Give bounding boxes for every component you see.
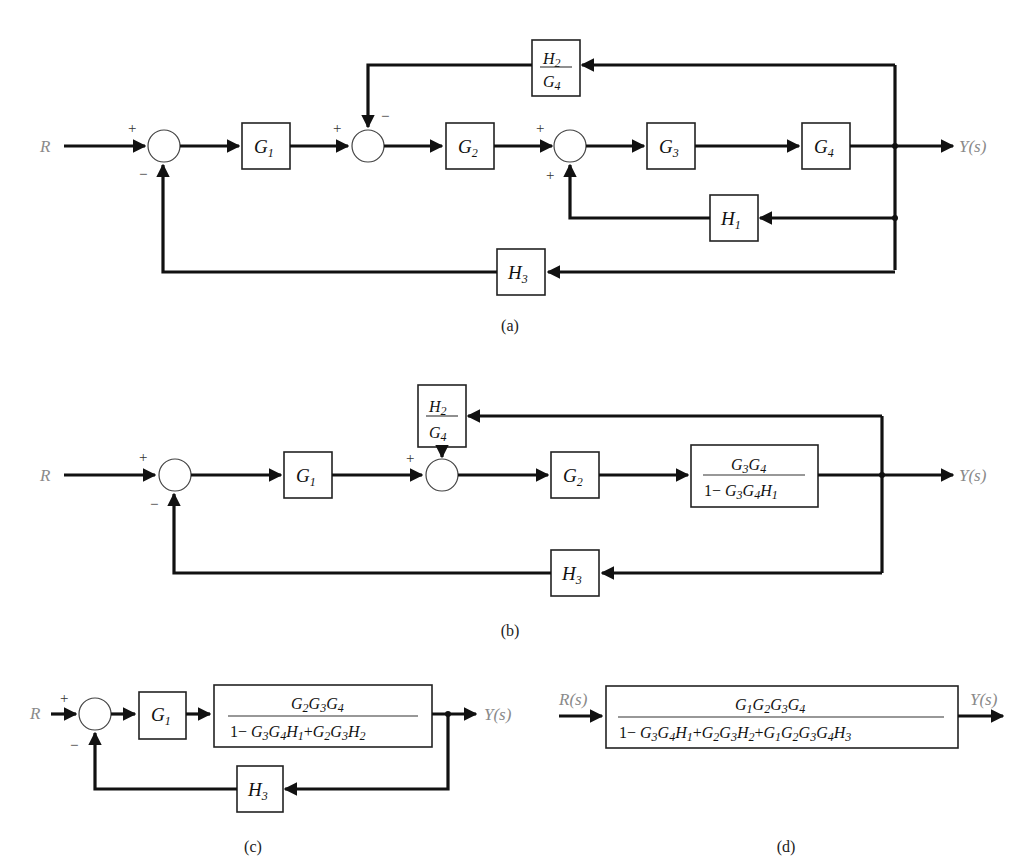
sign-plus: + [139, 449, 147, 465]
sign-minus: − [139, 166, 147, 182]
sign-minus: − [70, 737, 78, 753]
summing-junction-1 [159, 459, 191, 491]
caption-c: (c) [244, 838, 262, 856]
input-label-r: R [39, 137, 51, 156]
output-label-y: Y(s) [970, 690, 998, 709]
input-label-rs: R(s) [558, 690, 588, 709]
caption-a: (a) [501, 317, 519, 335]
input-label-r: R [39, 466, 51, 485]
sign-plus: + [546, 167, 554, 183]
summing-junction-3 [554, 130, 586, 162]
caption-d: (d) [777, 838, 796, 856]
sign-plus: + [128, 120, 136, 136]
summing-junction [79, 698, 111, 730]
wire-h3-feedback [174, 494, 551, 573]
caption-b: (b) [501, 622, 520, 640]
sign-plus: + [536, 120, 544, 136]
block-diagram-figure: R + − G1 + − G2 + + G3 G4 Y(s) H2 [0, 0, 1028, 866]
summing-junction-2 [426, 459, 458, 491]
summing-junction-1 [148, 130, 180, 162]
wire-h2-feedback [368, 65, 532, 127]
summing-junction-2 [352, 130, 384, 162]
output-label-y: Y(s) [959, 466, 987, 485]
panel-c: R + − G1 G2G3G4 1−G3G4H1+G2G3H2 Y(s) H3 … [29, 685, 512, 856]
wire-h1-feedback [570, 165, 710, 218]
panel-d: R(s) G1G2G3G4 1−G3G4H1+G2G3H2+G1G2G3G4H3… [558, 686, 1003, 856]
sign-plus: + [333, 120, 341, 136]
input-label-r: R [29, 704, 41, 723]
wire-h3-feedback [163, 165, 497, 272]
output-label-y: Y(s) [959, 137, 987, 156]
sign-minus: − [381, 108, 389, 124]
output-label-y: Y(s) [484, 705, 512, 724]
sign-minus: − [150, 496, 158, 512]
panel-b: R + − G1 + − H2 G4 G2 G3G4 1−G3G4H1 Y(s)… [39, 385, 987, 640]
sign-plus: + [60, 690, 68, 706]
sign-plus: + [406, 450, 414, 466]
panel-a: R + − G1 + − G2 + + G3 G4 Y(s) H2 [39, 40, 987, 335]
